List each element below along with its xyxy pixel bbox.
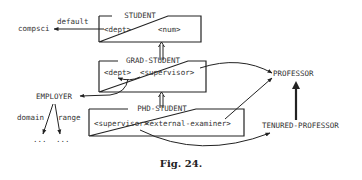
domain-dots: ... [33, 135, 47, 144]
range-dots: ... [56, 135, 70, 144]
grad-student-title: GRAD-STUDENT [126, 56, 181, 65]
grad-student-slot-dept: <dept> [104, 68, 132, 77]
domain-arrow [43, 104, 53, 134]
phd-student-title: PHD-STUDENT [137, 104, 187, 113]
default-edge-label: default [57, 17, 89, 26]
student-slot-dept: <dept> [104, 25, 132, 34]
frame-diagram: STUDENT <dept> <num> GRAD-STUDENT <dept>… [0, 0, 362, 180]
domain-edge-label: domain [17, 113, 44, 122]
phd-student-frame: PHD-STUDENT <supervisor> <external-exami… [89, 104, 244, 136]
phd-student-slot-external-examiner: <external-examiner> [145, 119, 231, 128]
professor-label: PROFESSOR [273, 69, 314, 78]
employer-label: EMPLOYER [36, 92, 73, 101]
range-edge-label: range [58, 113, 81, 122]
grad-student-slot-supervisor: <supervisor> [140, 68, 195, 77]
compsci-label: compsci [18, 24, 50, 33]
phd-student-slot-supervisor: <supervisor> [94, 119, 149, 128]
student-title: STUDENT [124, 11, 156, 20]
examiner-to-professor-arrow [225, 78, 272, 119]
tenured-professor-label: TENURED-PROFESSOR [262, 121, 339, 130]
grad-supervisor-to-professor-arrow [200, 63, 272, 73]
dept-to-employer-arrow [80, 79, 128, 96]
isa-tenured-arrowhead-icon [292, 81, 300, 89]
student-slot-num: <num> [158, 25, 181, 34]
phd-supervisor-to-tenured-arrow [140, 130, 270, 146]
grad-student-frame: GRAD-STUDENT <dept> <supervisor> [99, 56, 206, 92]
figure-caption: Fig. 24. [160, 158, 202, 169]
student-frame: STUDENT <dept> <num> [99, 11, 201, 42]
